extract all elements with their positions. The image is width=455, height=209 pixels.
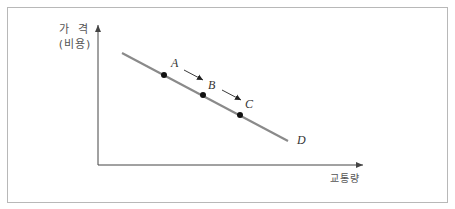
point-c [237,112,243,118]
arrow-b-to-c [222,90,241,100]
x-axis-label: 교통량 [330,170,360,185]
point-b [200,92,206,98]
y-axis-label-price: 가 격 [55,22,95,37]
y-axis-label: 가 격 (비용) [55,22,95,52]
point-b-label: B [208,78,215,93]
point-a [161,72,167,78]
arrow-a-to-b [184,70,203,80]
y-axis-label-cost: (비용) [55,37,95,52]
curve-d-label: D [297,133,306,148]
point-a-label: A [171,56,178,71]
point-c-label: C [245,97,253,112]
